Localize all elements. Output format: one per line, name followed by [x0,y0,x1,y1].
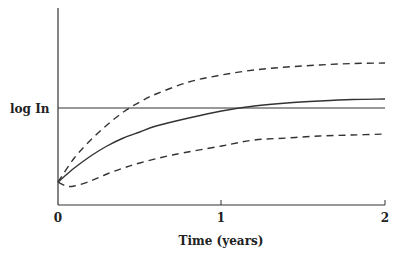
upper-dashed-curve [58,63,385,182]
x-tick-label-2: 2 [381,211,389,225]
mean-solid-curve [58,99,385,182]
lower-dashed-curve [58,134,385,187]
x-tick-label-1: 1 [217,211,225,225]
x-axis-label: Time (years) [179,234,264,248]
chart: log In 0 1 2 Time (years) [0,0,399,263]
y-reference-label: log In [10,102,50,116]
x-tick-label-0: 0 [54,211,62,225]
